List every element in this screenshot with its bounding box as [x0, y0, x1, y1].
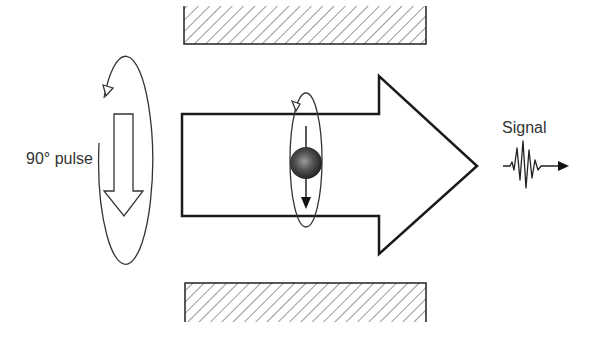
top-magnet-pole	[184, 6, 426, 44]
signal-waveform	[503, 141, 569, 188]
proton-spin	[290, 147, 322, 179]
signal-label: Signal	[502, 119, 546, 137]
mri-diagram	[0, 0, 591, 337]
pulse-label: 90° pulse	[26, 150, 93, 168]
rf-pulse-arrow	[104, 114, 143, 216]
main-magnetic-field-arrow	[182, 76, 477, 254]
signal-arrowhead-icon	[558, 161, 569, 171]
spin-rotation-arrowhead-icon	[292, 101, 300, 111]
bottom-magnet-pole	[185, 283, 426, 322]
